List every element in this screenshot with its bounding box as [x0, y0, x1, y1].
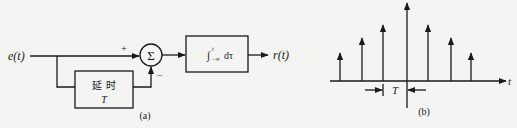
summer-symbol: Σ [147, 48, 155, 63]
integrator-label: ∫ t −∞ dτ [206, 46, 233, 62]
delay-to-summer-line [133, 67, 151, 87]
delay-label: 延 时 [92, 80, 115, 91]
block-diagram-a [30, 36, 268, 108]
svg-text:t: t [212, 46, 214, 52]
integrator-block [186, 36, 248, 72]
minus-sign: − [157, 70, 163, 81]
plus-sign: + [121, 43, 127, 54]
figure-canvas: e(t) + − Σ 延 时 T ∫ t −∞ dτ r(t) (a) t T … [0, 0, 517, 128]
delay-T-label: T [101, 94, 108, 105]
caption-a: (a) [139, 110, 150, 122]
branch-to-delay [57, 56, 75, 87]
impulse-train-b [330, 3, 506, 108]
period-label: T [392, 84, 399, 96]
svg-text:dτ: dτ [224, 50, 233, 61]
input-label: e(t) [8, 49, 25, 63]
impulses [340, 25, 471, 81]
output-label: r(t) [273, 48, 289, 62]
caption-b: (b) [418, 106, 430, 118]
axis-t-label: t [508, 75, 512, 87]
svg-text:∫: ∫ [206, 49, 211, 62]
svg-text:−∞: −∞ [212, 56, 220, 62]
